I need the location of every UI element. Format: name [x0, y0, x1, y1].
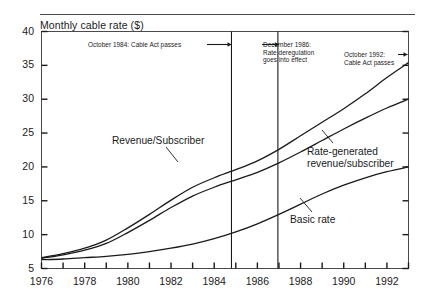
annotation-oct-1992-line2: Cable Act passes — [344, 59, 394, 67]
y-tick-label: 15 — [8, 194, 34, 206]
x-tick-label: 1990 — [324, 275, 364, 287]
annotation-oct-1984: October 1984: Cable Act passes — [88, 41, 181, 49]
series-label-rate-generated-revenue: Rate-generated revenue/subscriber — [307, 146, 403, 169]
annotation-dec-1986-line1: December 1986: — [263, 41, 311, 49]
y-tick-label: 10 — [8, 228, 34, 240]
series-label-revenue-subscriber: Revenue/Subscriber — [112, 135, 204, 147]
x-tick-label: 1980 — [108, 275, 148, 287]
y-tick-label: 25 — [8, 126, 34, 138]
x-tick-label: 1986 — [237, 275, 277, 287]
event-marker-lines — [231, 32, 277, 269]
annotation-dec-1986-line2: Rate deregulation — [263, 49, 314, 57]
x-axis-ticks — [42, 263, 409, 269]
x-tick-label: 1976 — [22, 275, 62, 287]
x-tick-label: 1982 — [151, 275, 191, 287]
x-tick-label: 1978 — [65, 275, 105, 287]
annotation-dec-1986-line3: goes into effect — [263, 56, 307, 64]
x-tick-label: 1992 — [367, 275, 407, 287]
y-tick-label: 20 — [8, 160, 34, 172]
annotation-oct-1992-line1: October 1992: — [344, 51, 385, 59]
y-tick-label: 40 — [8, 25, 34, 37]
y-tick-label: 35 — [8, 58, 34, 70]
x-tick-label: 1984 — [194, 275, 234, 287]
y-tick-label: 30 — [8, 92, 34, 104]
series-label-basic-rate: Basic rate — [290, 214, 335, 226]
x-tick-label: 1988 — [281, 275, 321, 287]
y-tick-label: 5 — [8, 262, 34, 274]
